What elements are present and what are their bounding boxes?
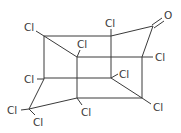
chlorine-label: Cl <box>105 17 115 29</box>
chlorine-label: Cl <box>155 51 165 63</box>
chlorine-label: Cl <box>7 104 17 116</box>
chlorine-label: Cl <box>81 106 91 118</box>
bond-c-d <box>111 26 153 36</box>
bond-h-cl <box>111 74 118 78</box>
chlorine-label: Cl <box>24 73 34 85</box>
bond-d-e <box>142 26 153 57</box>
bond-a-cl <box>36 31 44 36</box>
bonds <box>21 18 164 115</box>
bond-k-cl-1 <box>21 109 29 110</box>
bond-b-cl <box>77 50 80 57</box>
chlorine-label: Cl <box>24 21 34 33</box>
chlorine-label: Cl <box>119 68 129 80</box>
bond-k-cl-2 <box>29 109 35 115</box>
bond-j-cl <box>142 98 151 104</box>
chlorine-label: Cl <box>33 116 43 128</box>
bond-i-cl <box>77 98 82 105</box>
chlorine-label: Cl <box>153 101 163 113</box>
bond-h-j <box>111 78 142 98</box>
bond-i-k <box>29 98 77 109</box>
bond-a-b <box>44 36 77 57</box>
oxygen-label: O <box>164 9 172 21</box>
chemical-structure-diagram: Cl Cl Cl O Cl Cl Cl Cl Cl Cl Cl <box>0 0 181 133</box>
chlorine-label: Cl <box>77 38 87 50</box>
